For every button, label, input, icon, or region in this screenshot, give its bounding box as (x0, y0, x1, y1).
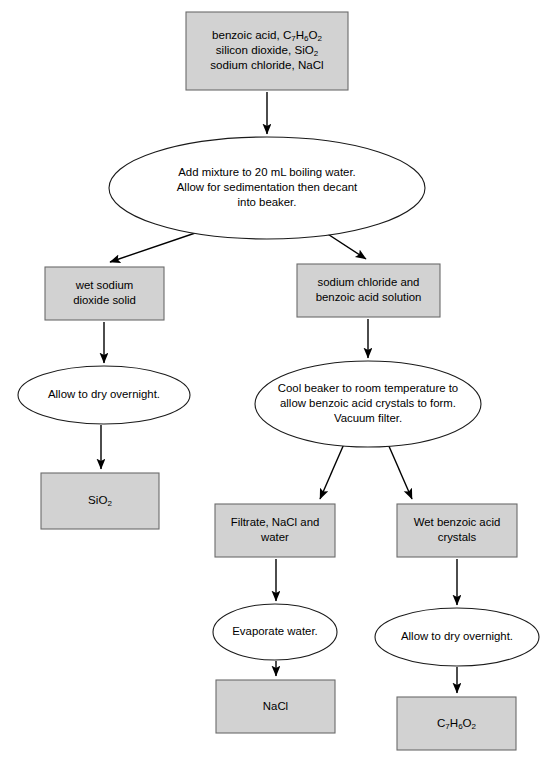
node-wet-solid: wet sodiumdioxide solid (45, 267, 164, 320)
node-label-line: NaCl (263, 700, 288, 712)
node-benzoic-product: C7H6O2 (397, 697, 516, 750)
node-label-line: Allow to dry overnight. (48, 388, 160, 400)
node-label-line: wet sodium (75, 279, 134, 291)
node-cool-beaker: Cool beaker to room temperature toallow … (255, 361, 481, 447)
node-mixture: benzoic acid, C7H6O2silicon dioxide, SiO… (186, 12, 348, 90)
node-nacl-benzoic-solution: sodium chloride andbenzoic acid solution (297, 264, 440, 317)
flow-arrow-cool-beaker-to-filtrate (320, 444, 344, 499)
node-label-line: crystals (438, 531, 477, 543)
node-label-line: Add mixture to 20 mL boiling water. (178, 166, 356, 178)
node-evaporate-water: Evaporate water. (213, 604, 337, 660)
node-nacl-product: NaCl (216, 680, 335, 733)
node-label-line: Cool beaker to room temperature to (278, 382, 458, 394)
node-label-line: sodium chloride and (318, 276, 420, 288)
node-label-line: Allow for sedimentation then decant (177, 181, 358, 193)
flow-arrow-add-mixture-to-wet-solid (110, 229, 207, 262)
node-label-line: Vacuum filter. (334, 412, 402, 424)
node-wet-crystals: Wet benzoic acidcrystals (397, 504, 517, 557)
node-label-line: Evaporate water. (232, 625, 317, 637)
flow-arrow-cool-beaker-to-wet-crystals (388, 444, 412, 499)
node-label-line: silicon dioxide, SiO2 (216, 43, 319, 58)
node-label-line: Allow to dry overnight. (401, 630, 513, 642)
nodes-layer: benzoic acid, C7H6O2silicon dioxide, SiO… (18, 12, 539, 750)
flowchart-diagram: benzoic acid, C7H6O2silicon dioxide, SiO… (0, 0, 554, 759)
node-sio2-product: SiO2 (41, 473, 159, 529)
node-label-line: dioxide solid (73, 294, 136, 306)
node-dry-overnight-right: Allow to dry overnight. (375, 608, 539, 666)
node-filtrate: Filtrate, NaCl andwater (215, 504, 335, 557)
node-label-line: into beaker. (238, 196, 297, 208)
flowchart-canvas: benzoic acid, C7H6O2silicon dioxide, SiO… (0, 0, 554, 759)
node-label-line: allow benzoic acid crystals to form. (280, 397, 456, 409)
node-label-line: Filtrate, NaCl and (231, 516, 320, 528)
node-label-line: sodium chloride, NaCl (210, 58, 323, 71)
node-add-mixture: Add mixture to 20 mL boiling water.Allow… (109, 137, 425, 239)
node-label-line: C7H6O2 (437, 716, 477, 731)
node-dry-overnight-left: Allow to dry overnight. (18, 366, 190, 424)
node-label-line: Wet benzoic acid (414, 516, 501, 528)
node-label-line: benzoic acid solution (316, 291, 422, 303)
node-label-line: water (260, 531, 289, 543)
